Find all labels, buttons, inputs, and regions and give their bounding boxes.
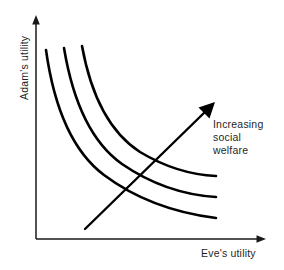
welfare-diagram: Adam's utility Eve's utility Increasing … <box>0 0 284 270</box>
x-axis-arrowhead-icon <box>257 235 267 243</box>
annotation-line-1: Increasing <box>213 118 263 130</box>
annotation-line-2: social <box>213 131 241 143</box>
y-axis-arrowhead-icon <box>32 15 40 25</box>
social-welfare-arrow-line <box>85 111 206 229</box>
indifference-curve-3 <box>82 46 216 176</box>
y-axis-label: Adam's utility <box>18 35 30 100</box>
figure-container: Adam's utility Eve's utility Increasing … <box>0 0 284 270</box>
x-axis-label: Eve's utility <box>201 247 256 259</box>
annotation-line-3: welfare <box>212 144 248 156</box>
